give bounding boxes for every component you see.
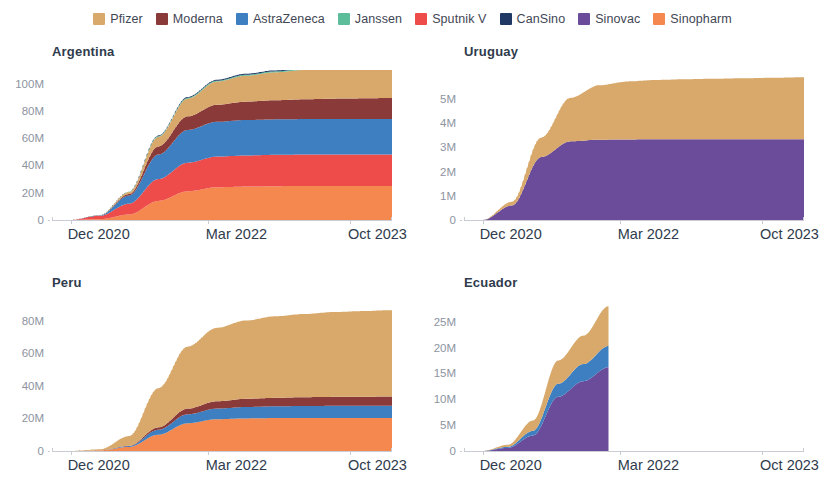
- chart-title: Peru: [52, 275, 82, 290]
- x-axis-tick-label: Dec 2020: [480, 226, 542, 242]
- y-axis-tick-label: 20M: [22, 412, 44, 424]
- stacked-area-plot: [52, 301, 392, 451]
- y-axis-tick-label: 20M: [434, 342, 456, 354]
- x-axis-end-cap: [52, 217, 53, 221]
- x-axis-tick-mark: [350, 451, 351, 455]
- x-axis-line: [52, 220, 392, 221]
- y-axis-zero-tick: [48, 451, 50, 452]
- x-axis-tick-mark: [620, 451, 621, 455]
- chart-panel-peru: Peru020M40M60M80MDec 2020Mar 2022Oct 202…: [0, 265, 412, 496]
- x-axis-tick-mark: [208, 451, 209, 455]
- y-axis-zero-tick: [460, 220, 462, 221]
- y-axis-tick-label: 25M: [434, 316, 456, 328]
- x-axis-tick-label: Dec 2020: [68, 226, 130, 242]
- x-axis-tick-mark: [483, 451, 484, 455]
- y-axis: 01M2M3M4M5M: [412, 70, 462, 220]
- plot-area: [52, 301, 392, 451]
- y-axis-tick-label: 0: [450, 214, 456, 226]
- y-axis-tick-label: 20M: [22, 187, 44, 199]
- y-axis-tick-label: 40M: [22, 159, 44, 171]
- x-axis-tick-label: Oct 2023: [760, 226, 819, 242]
- chart-title: Uruguay: [464, 44, 518, 59]
- legend-label-pfizer: Pfizer: [110, 12, 143, 26]
- x-axis-tick-label: Oct 2023: [348, 226, 407, 242]
- y-axis-tick-label: 40M: [22, 380, 44, 392]
- x-axis-tick-label: Oct 2023: [348, 457, 407, 473]
- plot-area: [464, 70, 804, 220]
- plot-area: [52, 70, 392, 220]
- legend-label-janssen: Janssen: [355, 12, 402, 26]
- legend-swatch-pfizer: [93, 13, 105, 25]
- x-axis-tick-mark: [762, 220, 763, 224]
- chart-title: Ecuador: [464, 275, 517, 290]
- y-axis-tick-label: 100M: [15, 78, 44, 90]
- legend-label-astrazeneca: AstraZeneca: [253, 12, 325, 26]
- x-axis-tick-label: Dec 2020: [68, 457, 130, 473]
- chart-panel-ecuador: Ecuador05M10M15M20M25MDec 2020Mar 2022Oc…: [412, 265, 824, 496]
- x-axis-tick-mark: [350, 220, 351, 224]
- y-axis-tick-label: 0: [450, 445, 456, 457]
- y-axis-tick-label: 3M: [440, 141, 456, 153]
- chart-panel-argentina: Argentina020M40M60M80M100MDec 2020Mar 20…: [0, 34, 412, 265]
- x-axis-tick-mark: [208, 220, 209, 224]
- stacked-area-plot: [464, 70, 804, 220]
- x-axis-line: [52, 451, 392, 452]
- y-axis-tick-label: 60M: [22, 132, 44, 144]
- legend-swatch-sinovac: [578, 13, 590, 25]
- legend-item-sinovac[interactable]: Sinovac: [578, 12, 640, 26]
- legend-item-pfizer[interactable]: Pfizer: [93, 12, 143, 26]
- area-series-sinovac: [483, 139, 804, 220]
- x-axis-tick-mark: [71, 220, 72, 224]
- x-axis-end-cap: [464, 448, 465, 452]
- chart-title: Argentina: [52, 44, 114, 59]
- small-multiples-grid: Argentina020M40M60M80M100MDec 2020Mar 20…: [0, 34, 825, 496]
- legend-label-sinopharm: Sinopharm: [670, 12, 731, 26]
- x-axis-end-cap: [803, 217, 804, 221]
- x-axis-end-cap: [391, 448, 392, 452]
- x-axis-tick-label: Mar 2022: [618, 226, 679, 242]
- x-axis-tick-mark: [762, 451, 763, 455]
- y-axis: 05M10M15M20M25M: [412, 301, 462, 451]
- x-axis-tick-label: Mar 2022: [206, 226, 267, 242]
- x-axis-line: [464, 451, 804, 452]
- stacked-area-plot: [464, 301, 804, 451]
- legend-label-sinovac: Sinovac: [595, 12, 640, 26]
- x-axis-end-cap: [391, 217, 392, 221]
- legend-item-sinopharm[interactable]: Sinopharm: [653, 12, 731, 26]
- legend-item-janssen[interactable]: Janssen: [338, 12, 402, 26]
- legend-item-sputnik_v[interactable]: Sputnik V: [415, 12, 486, 26]
- x-axis-tick-label: Mar 2022: [206, 457, 267, 473]
- y-axis-zero-tick: [460, 451, 462, 452]
- y-axis-tick-label: 80M: [22, 315, 44, 327]
- legend-item-moderna[interactable]: Moderna: [156, 12, 223, 26]
- y-axis-zero-tick: [48, 220, 50, 221]
- legend-swatch-astrazeneca: [236, 13, 248, 25]
- legend-swatch-moderna: [156, 13, 168, 25]
- y-axis-tick-label: 4M: [440, 117, 456, 129]
- x-axis-tick-label: Oct 2023: [760, 457, 819, 473]
- legend-item-astrazeneca[interactable]: AstraZeneca: [236, 12, 325, 26]
- y-axis-tick-label: 2M: [440, 166, 456, 178]
- y-axis-tick-label: 5M: [440, 93, 456, 105]
- y-axis-tick-label: 10M: [434, 393, 456, 405]
- y-axis-tick-label: 80M: [22, 105, 44, 117]
- legend-swatch-cansino: [500, 13, 512, 25]
- legend-swatch-sinopharm: [653, 13, 665, 25]
- x-axis-tick-label: Dec 2020: [480, 457, 542, 473]
- y-axis-tick-label: 60M: [22, 347, 44, 359]
- y-axis-tick-label: 15M: [434, 367, 456, 379]
- x-axis-tick-label: Mar 2022: [618, 457, 679, 473]
- y-axis: 020M40M60M80M: [0, 301, 50, 451]
- y-axis-tick-label: 0: [38, 445, 44, 457]
- x-axis-end-cap: [464, 217, 465, 221]
- chart-panel-uruguay: Uruguay01M2M3M4M5MDec 2020Mar 2022Oct 20…: [412, 34, 824, 265]
- plot-area: [464, 301, 804, 451]
- y-axis-tick-label: 0: [38, 214, 44, 226]
- x-axis-tick-mark: [483, 220, 484, 224]
- y-axis-tick-label: 5M: [440, 419, 456, 431]
- legend-item-cansino[interactable]: CanSino: [500, 12, 566, 26]
- vaccine-legend: PfizerModernaAstraZenecaJanssenSputnik V…: [0, 6, 825, 32]
- stacked-area-plot: [52, 70, 392, 220]
- legend-swatch-janssen: [338, 13, 350, 25]
- legend-label-sputnik_v: Sputnik V: [432, 12, 486, 26]
